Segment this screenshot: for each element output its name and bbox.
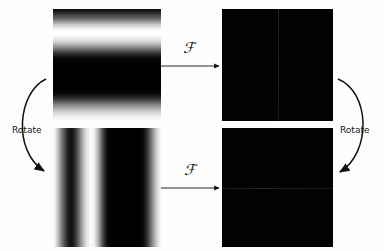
figure-canvas: ℱ ℱ Rotate Rotate — [0, 0, 384, 251]
fourier-operator-label-top: ℱ — [183, 41, 195, 56]
rotate-label-left: Rotate — [12, 125, 41, 135]
rotate-label-right: Rotate — [340, 125, 369, 135]
fourier-operator-label-bottom: ℱ — [184, 163, 196, 178]
arrow-overlay — [0, 0, 384, 251]
